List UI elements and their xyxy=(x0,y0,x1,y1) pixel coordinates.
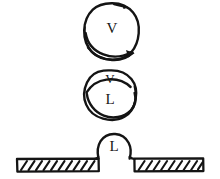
vapor-bubble-panel: V xyxy=(84,3,139,60)
substrate-left-segment xyxy=(17,159,99,172)
substrate-right-hatching xyxy=(139,161,203,170)
substrate-left-hatching xyxy=(21,161,95,170)
vapor-liquid-bubble-panel: V L xyxy=(84,70,136,119)
substrate-right-segment xyxy=(134,158,203,171)
liquid-droplet-label: L xyxy=(109,138,118,154)
figure-root: Vapor-liquid nucleation and wetting sequ… xyxy=(0,0,220,179)
vapor-liquid-upper-label: V xyxy=(105,71,115,86)
droplet-on-substrate-panel: L xyxy=(17,134,203,172)
vapor-bubble-label: V xyxy=(107,20,118,36)
hand-drawn-diagram-svg: Vapor-liquid nucleation and wetting sequ… xyxy=(0,0,220,179)
vapor-liquid-lower-label: L xyxy=(105,91,114,107)
